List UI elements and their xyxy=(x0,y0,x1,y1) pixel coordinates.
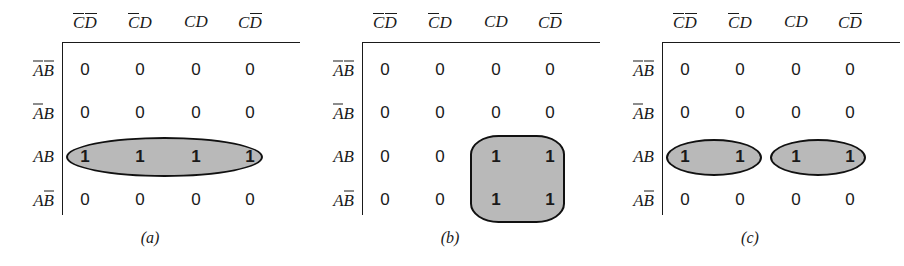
kmap-cell-r4c2: 0 xyxy=(420,190,460,210)
overbar-letter: C xyxy=(673,12,685,33)
kmap-cell-r2c4: 0 xyxy=(530,103,570,123)
kmap-cell-r2c3: 0 xyxy=(176,103,216,123)
overbar-letter: C xyxy=(728,12,740,33)
row-label-1: AB xyxy=(300,60,354,81)
kmap-cell-r3c2: 0 xyxy=(420,147,460,167)
kmap-cell-r1c4: 0 xyxy=(530,60,570,80)
column-header-1: CD xyxy=(657,12,713,33)
kmap-cell-r4c4: 1 xyxy=(530,190,570,210)
letter: D xyxy=(496,12,508,32)
kmap-cell-r2c4: 0 xyxy=(830,103,870,123)
column-header-2: CD xyxy=(112,12,168,33)
kmap-cell-r1c2: 0 xyxy=(720,60,760,80)
column-header-4: CD xyxy=(522,12,578,33)
row-label-1: AB xyxy=(600,60,654,81)
row-label-2: AB xyxy=(300,103,354,124)
overbar-letter: D xyxy=(85,12,97,33)
column-header-3: CD xyxy=(768,12,824,32)
column-header-1: CD xyxy=(357,12,413,33)
letter: B xyxy=(344,104,354,124)
letter: D xyxy=(796,12,808,32)
column-header-4: CD xyxy=(222,12,278,33)
letter: C xyxy=(784,12,796,32)
letter: A xyxy=(333,191,343,211)
kmap-cell-r3c4: 1 xyxy=(830,147,870,167)
panel-caption-a: (a) xyxy=(0,229,300,247)
kmap-panel-a: CDCDCDCDABABABAB0000000011110000(a) xyxy=(0,0,300,266)
kmap-cell-r4c3: 0 xyxy=(176,190,216,210)
column-header-2: CD xyxy=(712,12,768,33)
overbar-letter: B xyxy=(644,190,654,211)
letter: B xyxy=(644,147,654,167)
kmap-cell-r1c4: 0 xyxy=(230,60,270,80)
column-header-1: CD xyxy=(57,12,113,33)
letter: D xyxy=(140,13,152,33)
kmap-cell-r1c2: 0 xyxy=(420,60,460,80)
overbar-letter: B xyxy=(44,60,54,81)
overbar-letter: C xyxy=(373,12,385,33)
letter: C xyxy=(184,12,196,32)
kmap-cell-r1c2: 0 xyxy=(120,60,160,80)
kmap-cell-r4c3: 0 xyxy=(776,190,816,210)
overbar-letter: B xyxy=(344,60,354,81)
overbar-letter: D xyxy=(685,12,697,33)
letter: B xyxy=(644,104,654,124)
kmap-cell-r3c1: 1 xyxy=(65,147,105,167)
row-label-4: AB xyxy=(300,190,354,211)
letter: B xyxy=(344,147,354,167)
overbar-letter: A xyxy=(333,103,343,124)
kmap-horizontal-axis-line xyxy=(362,42,600,43)
kmap-cell-r3c2: 1 xyxy=(120,147,160,167)
letter: C xyxy=(238,13,250,33)
kmap-cell-r1c4: 0 xyxy=(830,60,870,80)
overbar-letter: B xyxy=(44,190,54,211)
kmap-cell-r1c3: 0 xyxy=(476,60,516,80)
kmap-cell-r1c1: 0 xyxy=(365,60,405,80)
kmap-cell-r3c3: 1 xyxy=(476,147,516,167)
kmap-cell-r2c2: 0 xyxy=(720,103,760,123)
kmap-cell-r4c1: 0 xyxy=(65,190,105,210)
kmap-cell-r1c1: 0 xyxy=(65,60,105,80)
letter: D xyxy=(196,12,208,32)
row-label-1: AB xyxy=(0,60,54,81)
column-header-4: CD xyxy=(822,12,878,33)
kmap-cell-r3c2: 1 xyxy=(720,147,760,167)
row-label-4: AB xyxy=(0,190,54,211)
letter: A xyxy=(33,147,43,167)
letter: C xyxy=(484,12,496,32)
letter: A xyxy=(633,147,643,167)
row-label-4: AB xyxy=(600,190,654,211)
overbar-letter: D xyxy=(850,12,862,33)
kmap-cell-r4c1: 0 xyxy=(365,190,405,210)
kmap-cell-r2c1: 0 xyxy=(65,103,105,123)
kmap-cell-r3c4: 1 xyxy=(230,147,270,167)
row-label-2: AB xyxy=(0,103,54,124)
letter: C xyxy=(838,13,850,33)
letter: D xyxy=(740,13,752,33)
row-label-2: AB xyxy=(600,103,654,124)
letter: A xyxy=(333,147,343,167)
kmap-cell-r3c3: 1 xyxy=(176,147,216,167)
kmap-cell-r1c1: 0 xyxy=(665,60,705,80)
kmap-horizontal-axis-line xyxy=(662,42,900,43)
kmap-cell-r3c1: 0 xyxy=(365,147,405,167)
kmap-cell-r1c3: 0 xyxy=(176,60,216,80)
overbar-letter: D xyxy=(550,12,562,33)
kmap-cell-r3c4: 1 xyxy=(530,147,570,167)
kmap-cell-r4c4: 0 xyxy=(830,190,870,210)
row-label-3: AB xyxy=(0,147,54,167)
kmap-cell-r4c2: 0 xyxy=(720,190,760,210)
karnaugh-map-figure: CDCDCDCDABABABAB0000000011110000(a)CDCDC… xyxy=(0,0,904,266)
column-header-3: CD xyxy=(168,12,224,32)
overbar-letter: A xyxy=(633,103,643,124)
kmap-vertical-axis-line xyxy=(62,42,63,215)
kmap-panel-c: CDCDCDCDABABABAB0000000011110000(c) xyxy=(600,0,900,266)
kmap-cell-r4c1: 0 xyxy=(665,190,705,210)
kmap-cell-r2c3: 0 xyxy=(476,103,516,123)
kmap-cell-r4c3: 1 xyxy=(476,190,516,210)
overbar-letter: D xyxy=(385,12,397,33)
overbar-letter: C xyxy=(73,12,85,33)
letter: B xyxy=(44,147,54,167)
column-header-2: CD xyxy=(412,12,468,33)
overbar-letter: A xyxy=(333,60,343,81)
